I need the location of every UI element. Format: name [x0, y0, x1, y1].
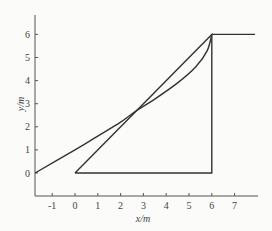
x-tick-label: 3 — [141, 200, 146, 211]
x-tick-label: 0 — [73, 200, 78, 211]
y-tick-label: 0 — [25, 168, 30, 179]
series-curve — [35, 34, 212, 173]
x-tick-label: 5 — [187, 200, 192, 211]
y-axis-label: y/m — [15, 97, 26, 112]
y-tick-label: 1 — [25, 144, 30, 155]
series — [35, 34, 255, 173]
y-tick-label: 6 — [25, 29, 30, 40]
chart: -101234567 0123456 x/m y/m — [0, 0, 272, 231]
series-triangle — [75, 34, 212, 173]
x-tick-label: -1 — [48, 200, 56, 211]
y-tick-label: 5 — [25, 52, 30, 63]
x-tick-label: 7 — [232, 200, 237, 211]
y-tick-label: 2 — [25, 121, 30, 132]
x-axis-label: x/m — [135, 213, 150, 224]
x-tick-label: 4 — [164, 200, 169, 211]
axes — [35, 15, 258, 196]
y-ticks: 0123456 — [25, 29, 38, 179]
x-tick-label: 1 — [95, 200, 100, 211]
x-tick-label: 6 — [209, 200, 214, 211]
y-tick-label: 4 — [25, 75, 30, 86]
x-tick-label: 2 — [118, 200, 123, 211]
